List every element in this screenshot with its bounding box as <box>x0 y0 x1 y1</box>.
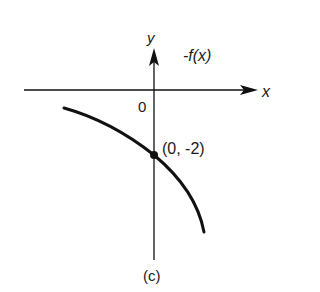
point-marker <box>150 151 158 159</box>
panel-label: (c) <box>143 268 161 283</box>
origin-label: 0 <box>138 99 146 114</box>
function-label: -f(x) <box>183 48 211 64</box>
y-axis-label: y <box>147 30 155 45</box>
point-label: (0, -2) <box>162 141 205 157</box>
function-curve <box>64 108 204 232</box>
x-axis-label: x <box>262 84 270 100</box>
